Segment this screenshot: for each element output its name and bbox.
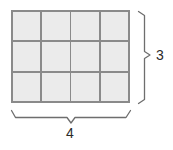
grid-cell [13,12,41,41]
grid-cell [42,73,70,102]
area-model-diagram: 3 4 [0,0,173,150]
grid-cell [101,42,129,71]
grid-cell [42,12,70,41]
grid-cell [13,73,41,102]
grid-cell [101,73,129,102]
grid-cell [101,12,129,41]
grid-cell [71,42,99,71]
grid-cell [42,42,70,71]
grid-cell [71,12,99,41]
width-bracket-icon [12,111,131,124]
unit-square-grid [11,10,130,103]
width-dimension-label: 4 [66,126,74,140]
height-bracket-icon [139,12,151,104]
height-dimension-label: 3 [156,48,164,62]
grid-cell [13,42,41,71]
grid-cell [71,73,99,102]
